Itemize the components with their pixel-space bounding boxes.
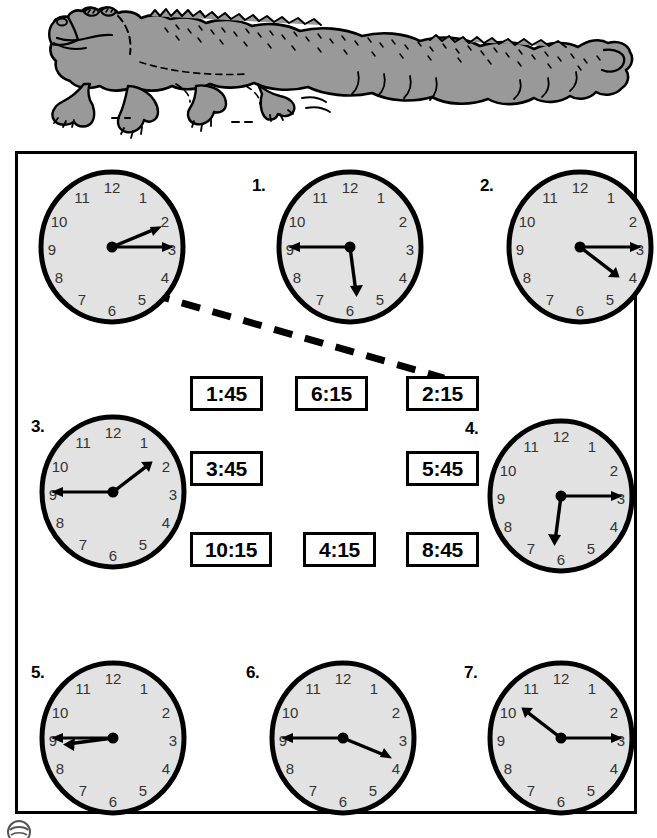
svg-text:9: 9 [497, 490, 505, 507]
svg-text:2: 2 [399, 213, 407, 230]
svg-text:3: 3 [617, 490, 625, 507]
svg-text:5: 5 [587, 540, 595, 557]
svg-text:1: 1 [607, 189, 615, 206]
svg-text:12: 12 [342, 179, 359, 196]
svg-text:12: 12 [335, 670, 352, 687]
svg-text:2: 2 [161, 213, 169, 230]
svg-text:10: 10 [51, 213, 68, 230]
svg-text:11: 11 [75, 434, 91, 451]
svg-text:6: 6 [346, 302, 354, 319]
svg-text:4: 4 [162, 760, 170, 777]
svg-text:1: 1 [140, 434, 148, 451]
svg-text:9: 9 [286, 241, 294, 258]
svg-text:12: 12 [572, 179, 589, 196]
svg-text:6: 6 [108, 302, 116, 319]
clock-2: 1212 345 678 91011 [503, 167, 657, 327]
svg-text:12: 12 [105, 424, 122, 441]
answer-box-6[interactable]: 10:15 [190, 532, 272, 567]
svg-text:1: 1 [139, 189, 147, 206]
svg-text:5: 5 [139, 782, 147, 799]
svg-text:7: 7 [79, 782, 87, 799]
svg-text:5: 5 [369, 782, 377, 799]
svg-text:7: 7 [546, 291, 554, 308]
svg-text:11: 11 [523, 680, 539, 697]
clock-label-4: 4. [465, 419, 478, 439]
answer-box-5[interactable]: 5:45 [406, 451, 479, 486]
svg-text:7: 7 [527, 540, 535, 557]
svg-text:8: 8 [504, 518, 512, 535]
svg-text:8: 8 [523, 269, 531, 286]
svg-text:6: 6 [339, 793, 347, 810]
answer-box-8[interactable]: 8:45 [406, 532, 479, 567]
svg-text:1: 1 [377, 189, 385, 206]
svg-text:10: 10 [52, 704, 69, 721]
svg-text:3: 3 [169, 486, 177, 503]
clock-label-6: 6. [246, 663, 259, 683]
svg-text:7: 7 [79, 536, 87, 553]
svg-text:12: 12 [104, 179, 121, 196]
svg-text:4: 4 [399, 269, 407, 286]
svg-text:2: 2 [162, 458, 170, 475]
svg-text:11: 11 [75, 680, 91, 697]
svg-text:12: 12 [105, 670, 122, 687]
svg-text:3: 3 [617, 732, 625, 749]
svg-text:8: 8 [55, 269, 63, 286]
svg-text:11: 11 [74, 189, 90, 206]
svg-text:9: 9 [516, 241, 524, 258]
svg-text:3: 3 [406, 241, 414, 258]
svg-text:10: 10 [500, 462, 517, 479]
svg-text:6: 6 [557, 551, 565, 568]
svg-text:4: 4 [392, 760, 400, 777]
answer-box-4[interactable]: 3:45 [190, 451, 263, 486]
svg-text:8: 8 [56, 760, 64, 777]
crocodile-illustration [0, 0, 651, 148]
svg-text:9: 9 [279, 732, 287, 749]
clock-4: 1212 345 678 91011 [484, 416, 638, 576]
svg-text:4: 4 [162, 514, 170, 531]
clock-1: 1212 345 678 91011 [273, 167, 427, 327]
answer-box-1[interactable]: 1:45 [190, 376, 263, 411]
svg-text:5: 5 [139, 536, 147, 553]
svg-text:3: 3 [636, 241, 644, 258]
svg-text:10: 10 [282, 704, 299, 721]
answer-box-2[interactable]: 6:15 [295, 376, 368, 411]
svg-text:9: 9 [49, 486, 57, 503]
svg-text:11: 11 [542, 189, 558, 206]
answer-box-7[interactable]: 4:15 [303, 532, 376, 567]
svg-text:10: 10 [52, 458, 69, 475]
svg-text:7: 7 [309, 782, 317, 799]
svg-text:8: 8 [56, 514, 64, 531]
clock-5: 1212 345 678 91011 [36, 658, 190, 818]
svg-text:12: 12 [553, 428, 570, 445]
svg-text:2: 2 [610, 462, 618, 479]
answer-box-3[interactable]: 2:15 [406, 376, 479, 411]
svg-text:12: 12 [553, 670, 570, 687]
svg-text:1: 1 [370, 680, 378, 697]
clock-label-2: 2. [480, 176, 493, 196]
svg-text:10: 10 [289, 213, 306, 230]
circular-logo-mark [4, 816, 34, 838]
svg-text:9: 9 [49, 732, 57, 749]
svg-text:1: 1 [140, 680, 148, 697]
svg-text:2: 2 [610, 704, 618, 721]
svg-text:8: 8 [504, 760, 512, 777]
svg-text:6: 6 [109, 547, 117, 564]
svg-text:8: 8 [293, 269, 301, 286]
svg-text:2: 2 [162, 704, 170, 721]
svg-text:3: 3 [168, 241, 176, 258]
svg-text:1: 1 [588, 680, 596, 697]
clock-label-7: 7. [464, 663, 477, 683]
svg-text:11: 11 [523, 438, 539, 455]
svg-text:3: 3 [399, 732, 407, 749]
svg-text:2: 2 [392, 704, 400, 721]
svg-text:2: 2 [629, 213, 637, 230]
svg-text:5: 5 [606, 291, 614, 308]
svg-text:8: 8 [286, 760, 294, 777]
svg-text:6: 6 [109, 793, 117, 810]
svg-text:10: 10 [500, 704, 517, 721]
svg-text:11: 11 [305, 680, 321, 697]
svg-text:7: 7 [527, 782, 535, 799]
svg-text:9: 9 [48, 241, 56, 258]
worksheet-panel: 1212 345 678 91011 1. [15, 151, 637, 814]
